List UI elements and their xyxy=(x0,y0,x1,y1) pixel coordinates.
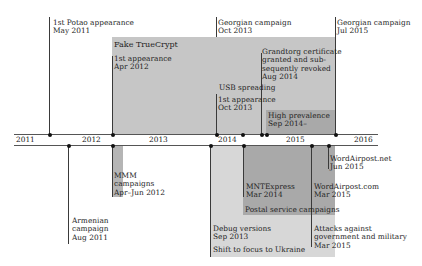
fake-truecrypt-title: Fake TrueCrypt xyxy=(114,41,178,49)
debug-event-marker xyxy=(209,144,213,148)
usb-event-marker xyxy=(215,133,219,137)
wordairpost-com-event-line xyxy=(311,145,312,247)
wordairpost-com-event-marker xyxy=(310,144,314,148)
attacks-event-label: Attacks against government and military … xyxy=(314,225,407,250)
armenian-event-line xyxy=(68,145,69,244)
mntexpress-event-line xyxy=(243,145,244,197)
mmm-event-marker xyxy=(111,144,115,148)
mntexpress-event-marker xyxy=(242,144,246,148)
grandtorg-event-marker xyxy=(260,133,264,137)
wordairpost-net-event-marker xyxy=(327,144,331,148)
year-label-2015: 2015 xyxy=(286,135,305,144)
usb-spreading-title: USB spreading xyxy=(219,84,276,92)
year-label-2016: 2016 xyxy=(354,135,373,144)
usb-event-line xyxy=(216,94,217,134)
mntexpress-event-label: MNTExpress Mar 2014 xyxy=(246,183,295,200)
potao-event-line xyxy=(49,17,50,134)
fake-truecrypt-event-label: 1st appearance Apr 2012 xyxy=(114,55,172,72)
mar-2014-upper-marker xyxy=(241,133,245,137)
mmm-event-label: MMM campaigns Apr–Jun 2012 xyxy=(114,172,165,197)
high-prevalence-event-marker xyxy=(265,133,269,137)
upper-timeline-axis xyxy=(14,134,378,135)
potao-event-marker xyxy=(48,133,52,137)
grandtorg-event-label: Grandtorg certificate granted and sub- s… xyxy=(262,48,342,82)
high-prevalence-event-label: High prevalence Sep 2014– xyxy=(268,112,330,129)
potao-event-label: 1st Potao appearance May 2011 xyxy=(53,19,134,36)
year-label-2014: 2014 xyxy=(218,135,237,144)
year-label-2011: 2011 xyxy=(16,135,35,144)
armenian-event-marker xyxy=(67,144,71,148)
georgian-2015-event-label: Georgian campaign Jul 2015 xyxy=(337,19,410,36)
debug-event-line xyxy=(210,145,211,257)
debug-event-label: Debug versions Sep 2013 xyxy=(213,225,271,242)
postal-service-title: Postal service campaigns xyxy=(245,206,339,214)
georgian-2013-event-line xyxy=(216,17,217,37)
armenian-event-label: Armenian campaign Aug 2011 xyxy=(72,217,109,242)
georgian-2013-event-label: Georgian campaign Oct 2013 xyxy=(218,19,291,36)
fake-truecrypt-event-line xyxy=(112,56,113,134)
wordairpost-com-event-label: WordAirpost.com Mar 2015 xyxy=(314,183,379,200)
fake-truecrypt-event-marker xyxy=(111,133,115,137)
wordairpost-net-event-label: WordAirpost.net Jun 2015 xyxy=(330,155,391,172)
year-label-2012: 2012 xyxy=(82,135,101,144)
wordairpost-net-event-line xyxy=(328,145,329,169)
georgian-2015-event-marker xyxy=(334,133,338,137)
year-label-2013: 2013 xyxy=(149,135,168,144)
ukraine-shift-title: Shift to focus to Ukraine xyxy=(213,246,305,254)
mmm-event-line xyxy=(112,145,113,197)
